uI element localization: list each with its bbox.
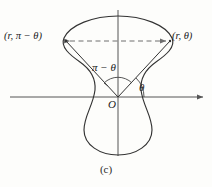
point-label-left: (r, π − θ): [4, 31, 42, 42]
point-marker-left: [65, 40, 67, 42]
figure-canvas: [0, 0, 212, 187]
angle-label-supplement: π − θ: [92, 62, 116, 73]
polar-curve-figure: (r, π − θ) (r, θ) π − θ θ O (c): [0, 0, 212, 187]
origin-label: O: [108, 99, 116, 110]
angle-label-theta: θ: [139, 82, 144, 93]
point-label-right: (r, θ): [172, 31, 192, 42]
figure-caption: (c): [0, 163, 212, 175]
point-marker-right: [169, 40, 171, 42]
